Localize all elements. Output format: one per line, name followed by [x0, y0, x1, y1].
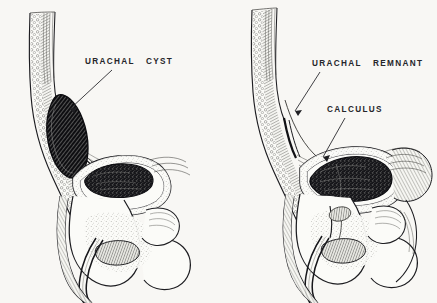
label-calculus: CALCULUS	[327, 106, 383, 114]
label-urachal-remnant: URACHALREMNANT	[312, 60, 423, 68]
label-urachal-cyst: URACHALCYST	[85, 58, 173, 66]
label-urachal-cyst-word2: CYST	[146, 57, 173, 66]
label-urachal-remnant-word1: URACHAL	[312, 59, 362, 68]
label-calculus-word1: CALCULUS	[327, 105, 383, 114]
figure-root: URACHALCYST URACHALREMNANT CALCULUS	[0, 0, 437, 303]
illustration-canvas	[0, 0, 437, 303]
label-urachal-remnant-word2: REMNANT	[373, 59, 423, 68]
label-urachal-cyst-word1: URACHAL	[85, 57, 135, 66]
